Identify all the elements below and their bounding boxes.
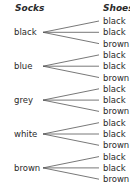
branch-line xyxy=(43,134,99,145)
branch-line xyxy=(43,21,99,32)
shoe-label-black: black xyxy=(103,152,126,162)
shoe-label-black: black xyxy=(103,84,126,94)
branch-line xyxy=(43,66,99,77)
shoe-label-black: black xyxy=(103,16,126,26)
sock-label-grey: grey xyxy=(14,95,33,105)
shoe-label-black: black xyxy=(103,129,126,139)
branch-line xyxy=(43,123,99,134)
branch-line xyxy=(43,157,99,168)
shoe-label-brown: brown xyxy=(103,140,129,150)
sock-label-blue: blue xyxy=(14,61,32,71)
sock-label-white: white xyxy=(14,129,37,139)
shoe-label-black: black xyxy=(103,61,126,71)
shoe-label-black: black xyxy=(103,27,126,37)
branch-line xyxy=(43,55,99,66)
shoe-label-black: black xyxy=(103,118,126,128)
branch-line xyxy=(43,32,99,43)
shoe-label-brown: brown xyxy=(103,106,129,116)
sock-label-black: black xyxy=(14,27,37,37)
shoe-label-brown: brown xyxy=(103,73,129,83)
shoe-label-black: black xyxy=(103,50,126,60)
branch-line xyxy=(43,168,99,179)
sock-label-brown: brown xyxy=(14,163,40,173)
shoe-label-brown: brown xyxy=(103,39,129,49)
shoe-label-black: black xyxy=(103,95,126,105)
branch-line xyxy=(43,100,99,111)
shoe-label-brown: brown xyxy=(103,174,129,184)
branch-line xyxy=(43,89,99,100)
shoe-label-black: black xyxy=(103,163,126,173)
